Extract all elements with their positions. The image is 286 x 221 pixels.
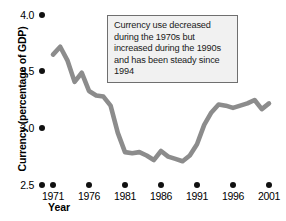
x-tick-dot-1986 (158, 182, 164, 188)
x-tick-label-1991: 1991 (180, 190, 214, 202)
x-tick-dot-1971 (50, 182, 56, 188)
currency-gdp-line-chart: Currency (percentage of GDP) Year 4.0 3.… (0, 0, 286, 221)
x-tick-label-1996: 1996 (216, 190, 250, 202)
y-tick-dot-4-0 (39, 12, 45, 18)
x-tick-label-1976: 1976 (72, 190, 106, 202)
x-tick-label-1971: 1971 (36, 190, 70, 202)
x-tick-dot-1996 (230, 182, 236, 188)
y-tick-label-2-5: 2.5 (8, 179, 34, 191)
x-tick-dot-2001 (266, 182, 272, 188)
x-axis-title: Year (48, 201, 70, 213)
y-tick-label-3-5: 3.5 (8, 65, 34, 77)
y-axis-title: Currency (percentage of GDP) (16, 19, 28, 179)
y-tick-dot-2-5 (39, 182, 45, 188)
x-tick-label-1981: 1981 (108, 190, 142, 202)
x-tick-dot-1991 (194, 182, 200, 188)
x-tick-label-1986: 1986 (144, 190, 178, 202)
x-tick-dot-1981 (122, 182, 128, 188)
y-tick-dot-3-5 (39, 68, 45, 74)
y-tick-label-4-0: 4.0 (8, 9, 34, 21)
x-tick-dot-1976 (86, 182, 92, 188)
y-tick-label-3-0: 3.0 (8, 122, 34, 134)
y-tick-dot-3-0 (39, 125, 45, 131)
annotation-callout: Currency use decreased during the 1970s … (107, 15, 238, 83)
x-tick-label-2001: 2001 (252, 190, 286, 202)
